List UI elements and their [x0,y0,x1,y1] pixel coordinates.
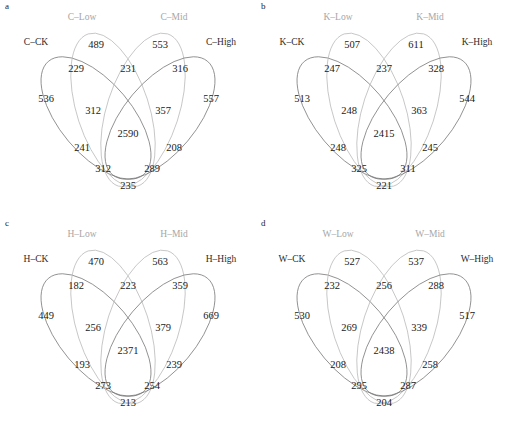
count-low-mid-high: 2438 [374,345,395,356]
venn-panel-a: a C–CK C–Low C–Mid C–High 536 489 553 55… [0,0,256,216]
count-ck-only: 513 [294,93,310,104]
count-all-four: 204 [376,397,393,408]
set-label-ck: K–CK [280,37,305,47]
count-ck-high: 273 [95,380,111,391]
set-label-mid: K–Mid [416,12,444,22]
set-labels: C–CK C–Low C–Mid C–High [24,12,236,47]
count-ck-low-mid: 241 [74,142,90,153]
count-mid-only: 553 [152,39,168,50]
region-counts: 530 527 537 517 232 256 288 269 339 208 … [294,256,475,408]
set-label-ck: H–CK [24,254,49,264]
count-low-only: 527 [344,256,360,267]
set-labels: H–CK H–Low H–Mid H–High [24,229,237,264]
count-low-mid: 223 [120,280,136,291]
count-ck-mid: 312 [85,105,101,116]
count-low-high: 339 [411,322,427,333]
count-mid-high: 328 [428,63,444,74]
set-label-low: W–Low [322,229,353,239]
region-counts: 536 489 553 557 229 231 316 312 357 241 … [38,39,219,191]
venn-diagram-a: C–CK C–Low C–Mid C–High 536 489 553 557 … [0,0,256,216]
count-ck-low-mid: 248 [330,142,346,153]
count-ck-only: 449 [38,310,54,321]
count-mid-high: 316 [172,63,188,74]
ellipse-group [21,23,235,198]
count-ck-low-mid: 193 [74,359,90,370]
region-counts: 449 470 563 669 182 223 359 256 379 193 … [38,256,219,408]
count-ck-mid-high: 289 [144,163,160,174]
count-low-only: 470 [88,256,104,267]
count-ck-low-high: 258 [422,359,438,370]
count-ck-low-high: 239 [166,359,182,370]
venn-diagram-c: H–CK H–Low H–Mid H–High 449 470 563 669 … [0,217,256,433]
count-high-only: 557 [203,93,219,104]
count-all-four: 213 [120,397,136,408]
count-ck-low: 182 [68,280,84,291]
set-label-mid: C–Mid [161,12,188,22]
count-low-mid-high: 2415 [374,128,395,139]
count-low-mid: 256 [376,280,392,291]
count-all-four: 221 [376,180,392,191]
count-high-only: 669 [203,310,219,321]
count-ck-high: 325 [351,163,367,174]
count-ck-low: 232 [324,280,340,291]
count-ck-mid-high: 254 [144,380,161,391]
count-ck-mid-high: 311 [400,163,415,174]
count-ck-low-mid: 208 [330,359,346,370]
set-label-high: C–High [206,37,236,47]
set-labels: K–CK K–Low K–Mid K–High [280,12,493,47]
set-label-high: H–High [206,254,237,264]
count-ck-low-high: 208 [166,142,182,153]
count-ck-high: 312 [95,163,111,174]
set-label-high: K–High [462,37,493,47]
count-low-mid-high: 2371 [118,345,139,356]
count-low-mid-high: 2590 [118,128,139,139]
count-ck-mid: 248 [341,105,357,116]
count-mid-only: 537 [408,256,424,267]
count-low-only: 507 [344,39,360,50]
count-high-only: 517 [459,310,475,321]
set-label-ck: C–CK [24,37,48,47]
count-ck-low: 247 [324,63,340,74]
count-mid-high: 288 [428,280,444,291]
venn-panel-d: d W–CK W–Low W–Mid W–High 530 527 537 51… [256,217,512,433]
set-label-low: H–Low [67,229,96,239]
count-mid-high: 359 [172,280,188,291]
venn-diagram-d: W–CK W–Low W–Mid W–High 530 527 537 517 … [256,217,512,433]
count-low-mid: 237 [376,63,392,74]
venn-panel-b: b K–CK K–Low K–Mid K–High 513 507 611 54… [256,0,512,216]
set-label-ck: W–CK [279,254,306,264]
count-low-high: 357 [155,105,171,116]
venn-figure: a C–CK C–Low C–Mid C–High 536 489 553 55… [0,0,512,433]
set-label-high: W–High [461,254,494,264]
set-label-mid: W–Mid [415,229,445,239]
count-high-only: 544 [459,93,476,104]
count-ck-mid: 269 [341,322,357,333]
count-ck-mid: 256 [85,322,101,333]
set-labels: W–CK W–Low W–Mid W–High [279,229,494,264]
count-all-four: 235 [120,180,136,191]
count-mid-only: 611 [408,39,423,50]
venn-diagram-b: K–CK K–Low K–Mid K–High 513 507 611 544 … [256,0,512,216]
set-label-mid: H–Mid [160,229,188,239]
count-ck-low: 229 [68,63,84,74]
set-label-low: K–Low [323,12,352,22]
count-ck-high: 295 [351,380,367,391]
count-low-high: 363 [411,105,427,116]
venn-panel-c: c H–CK H–Low H–Mid H–High 449 470 563 66… [0,217,256,433]
count-ck-mid-high: 287 [400,380,416,391]
region-counts: 513 507 611 544 247 237 328 248 363 248 … [294,39,476,191]
count-low-mid: 231 [120,63,136,74]
count-ck-only: 536 [38,93,54,104]
count-ck-only: 530 [294,310,310,321]
count-ck-low-high: 245 [422,142,438,153]
count-low-only: 489 [88,39,104,50]
count-low-high: 379 [155,322,171,333]
ellipse-group [21,240,235,415]
count-mid-only: 563 [152,256,168,267]
set-label-low: C–Low [68,12,97,22]
ellipse-group [277,23,491,198]
ellipse-group [277,240,491,415]
